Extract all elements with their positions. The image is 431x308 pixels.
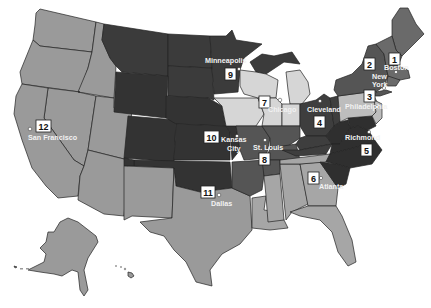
- district-number-label: 7: [262, 98, 267, 108]
- district-number-12: 12: [36, 120, 51, 132]
- district-number-label: 2: [367, 60, 372, 70]
- city-label-kansas-city-line2: City: [227, 144, 241, 153]
- city-dot-chicago: [278, 98, 282, 102]
- district-number-label: 6: [311, 174, 316, 184]
- district-number-label: 11: [203, 188, 213, 198]
- district-number-label: 3: [367, 92, 372, 102]
- district-number-label: 9: [228, 70, 233, 80]
- city-label-philadelphia: Philadelphia: [345, 102, 388, 111]
- district-number-label: 8: [262, 155, 267, 165]
- city-dot-dallas: [217, 193, 221, 197]
- district-number-label: 5: [364, 146, 369, 156]
- city-label-boston: Boston: [384, 63, 409, 72]
- district-number-9: 9: [225, 68, 236, 80]
- district-number-10: 10: [204, 131, 219, 143]
- district-number-2: 2: [364, 58, 375, 70]
- city-dot-atlanta: [319, 176, 322, 179]
- district-number-11: 11: [201, 186, 215, 198]
- city-dot-minneapolis: [237, 67, 240, 70]
- city-label-cleveland: Cleveland: [307, 105, 341, 114]
- district-number-label: 4: [317, 118, 322, 128]
- city-label-richmond: Richmond: [345, 133, 380, 142]
- city-dot-st-louis: [263, 138, 266, 141]
- district-number-3: 3: [364, 90, 375, 102]
- city-dot-san-francisco: [28, 127, 32, 131]
- district-number-label: 12: [38, 122, 48, 132]
- district-number-8: 8: [259, 153, 270, 165]
- city-label-kansas-city-line1: Kansas: [221, 135, 247, 144]
- district-number-6: 6: [308, 172, 319, 184]
- district-number-5: 5: [361, 144, 372, 156]
- district-number-4: 4: [314, 116, 325, 128]
- city-label-atlanta: Atlanta: [319, 182, 344, 191]
- city-label-new-york-line2: York: [372, 80, 387, 89]
- city-label-minneapolis: Minneapolis: [205, 56, 247, 65]
- city-label-san-francisco: San Francisco: [28, 133, 78, 142]
- city-label-dallas: Dallas: [211, 199, 232, 208]
- district-number-label: 10: [206, 133, 216, 143]
- city-dot-cleveland: [318, 99, 321, 102]
- federal-reserve-map: 1 2 3 4 5 6 7 8 9 10 11 12: [0, 0, 431, 308]
- city-label-st-louis: St. Louis: [253, 143, 283, 152]
- city-label-chicago: Chicago: [268, 105, 297, 114]
